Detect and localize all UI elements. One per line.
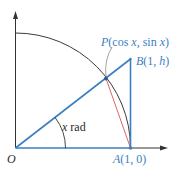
unit-circle-diagram xyxy=(0,0,179,170)
angle-unit: rad xyxy=(67,120,85,134)
angle-label: x rad xyxy=(62,121,86,133)
x-axis-arrow-icon xyxy=(160,146,168,151)
point-A-coords: (1, 0) xyxy=(120,152,146,166)
point-A-dot xyxy=(129,146,133,150)
point-B-coords-open: (1, xyxy=(143,54,159,68)
point-B-coords-close: ) xyxy=(165,54,169,68)
origin-label: O xyxy=(7,153,16,165)
point-P-dot xyxy=(104,77,108,81)
point-P-close: ) xyxy=(165,35,169,49)
point-B-dot xyxy=(129,58,131,60)
point-A-label: A(1, 0) xyxy=(113,153,146,165)
chord-PA xyxy=(106,79,131,149)
point-B-label: B(1, h) xyxy=(136,55,169,67)
point-P-mid: , sin xyxy=(137,35,160,49)
segment-OB xyxy=(16,59,131,148)
y-axis-arrow-icon xyxy=(13,11,18,19)
point-P-label: P(cos x, sin x) xyxy=(101,36,169,48)
leader-line-P xyxy=(106,47,112,77)
point-P-open: (cos xyxy=(108,35,131,49)
